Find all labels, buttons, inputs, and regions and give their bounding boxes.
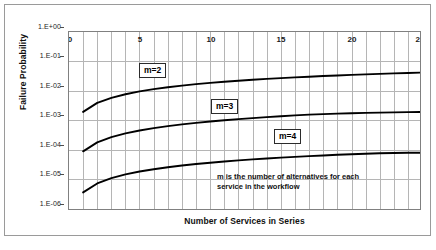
- y-tick-label-1e-2: 1.E-02: [5, 82, 61, 90]
- y-tick-mark: [60, 56, 64, 57]
- x-tick-label-15: 15: [271, 35, 291, 44]
- y-tick-mark: [60, 115, 64, 116]
- y-tick-label-1e0: 1.E+00: [5, 23, 61, 31]
- y-tick-mark: [60, 204, 64, 205]
- figure-frame: 1.E+00 1.E-01 1.E-02 1.E-03 1.E-04 1.E-0…: [4, 4, 431, 236]
- x-tick-label-5: 5: [130, 35, 150, 44]
- y-tick-label-1e-5: 1.E-05: [5, 170, 61, 178]
- plot-area: 0 5 10 15 20 25 m=2 m=3 m=4 m is the num…: [68, 31, 421, 210]
- chart-page: 1.E+00 1.E-01 1.E-02 1.E-03 1.E-04 1.E-0…: [0, 0, 436, 250]
- y-tick-label-1e-1: 1.E-01: [5, 52, 61, 60]
- series-label-m2: m=2: [139, 63, 166, 78]
- curve-m2: [83, 73, 421, 112]
- m-definition-note: m is the number of alternatives for each…: [217, 172, 359, 192]
- y-tick-label-1e-4: 1.E-04: [5, 141, 61, 149]
- y-tick-label-1e-3: 1.E-03: [5, 111, 61, 119]
- y-tick-mark: [60, 174, 64, 175]
- y-axis-title: Failure Probability: [18, 12, 28, 132]
- x-axis-title: Number of Services in Series: [68, 216, 421, 226]
- curve-m3: [83, 112, 421, 151]
- x-tick-label-20: 20: [342, 35, 362, 44]
- x-tick-label-0: 0: [68, 35, 80, 44]
- note-line-2: service in the workflow: [217, 182, 359, 192]
- y-tick-mark: [60, 86, 64, 87]
- x-tick-label-25: 25: [410, 35, 421, 44]
- x-tick-label-10: 10: [201, 35, 221, 44]
- y-tick-mark: [60, 27, 64, 28]
- series-label-m4: m=4: [274, 129, 301, 144]
- series-label-m3: m=3: [211, 99, 238, 114]
- y-tick-label-1e-6: 1.E-06: [5, 200, 61, 208]
- y-tick-mark: [60, 145, 64, 146]
- note-line-1: m is the number of alternatives for each: [217, 172, 359, 182]
